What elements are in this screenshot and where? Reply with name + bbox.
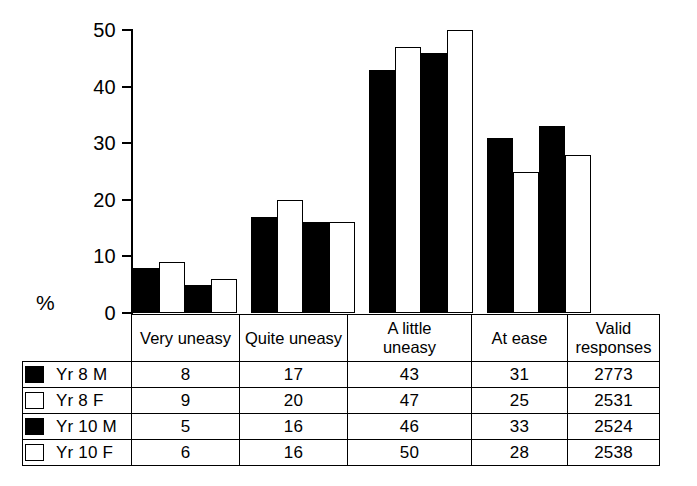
bar bbox=[133, 268, 159, 313]
table-cell: 16 bbox=[240, 414, 348, 440]
table-row: Yr 10 F61650282538 bbox=[23, 440, 660, 466]
y-tick-mark bbox=[122, 29, 131, 31]
table-column-header-line: Valid bbox=[568, 319, 659, 338]
table-row: Yr 10 M51646332524 bbox=[23, 414, 660, 440]
y-tick-label: 10 bbox=[74, 246, 116, 266]
table-cell: 2524 bbox=[568, 414, 660, 440]
y-tick-label: 50 bbox=[74, 20, 116, 40]
bar bbox=[565, 155, 591, 313]
table-cell: 33 bbox=[472, 414, 568, 440]
table-corner-blank bbox=[23, 315, 132, 362]
y-tick-mark bbox=[122, 255, 131, 257]
table-cell: 16 bbox=[240, 440, 348, 466]
y-tick-mark bbox=[122, 86, 131, 88]
table-column-header: Very uneasy bbox=[132, 315, 240, 362]
table-column-header: Quite uneasy bbox=[240, 315, 348, 362]
bar bbox=[159, 262, 185, 313]
table-column-header-line: Very uneasy bbox=[132, 329, 239, 348]
table-column-header-line: Quite uneasy bbox=[240, 329, 347, 348]
bar bbox=[539, 126, 565, 313]
bar-group bbox=[133, 30, 237, 313]
legend-series-label: Yr 8 F bbox=[56, 391, 104, 411]
y-tick-mark bbox=[122, 142, 131, 144]
table-cell: 46 bbox=[348, 414, 472, 440]
bar-group bbox=[369, 30, 473, 313]
table-column-header: A littleuneasy bbox=[348, 315, 472, 362]
table-cell: 47 bbox=[348, 388, 472, 414]
bar bbox=[369, 70, 395, 313]
table-cell: 2773 bbox=[568, 362, 660, 388]
y-tick-mark bbox=[122, 199, 131, 201]
bar-group bbox=[487, 30, 591, 313]
bar bbox=[185, 285, 211, 313]
legend-series-label: Yr 10 M bbox=[56, 417, 117, 437]
bar bbox=[251, 217, 277, 313]
legend-series-label: Yr 8 M bbox=[56, 365, 107, 385]
bar bbox=[395, 47, 421, 313]
bar bbox=[447, 30, 473, 313]
table-cell: 2538 bbox=[568, 440, 660, 466]
table-row: Yr 8 M81743312773 bbox=[23, 362, 660, 388]
bar bbox=[487, 138, 513, 313]
legend-cell: Yr 10 F bbox=[23, 440, 132, 466]
legend-cell: Yr 10 M bbox=[23, 414, 132, 440]
legend-swatch-icon bbox=[25, 392, 44, 409]
plot-area bbox=[133, 30, 658, 313]
legend-swatch-icon bbox=[25, 366, 44, 383]
chart-figure: % 50403020100 Very uneasyQuite uneasyA l… bbox=[0, 0, 697, 486]
table-column-header: Validresponses bbox=[568, 315, 660, 362]
legend-swatch-icon bbox=[25, 444, 44, 461]
table-cell: 6 bbox=[132, 440, 240, 466]
table-cell: 43 bbox=[348, 362, 472, 388]
y-tick-label: 30 bbox=[74, 133, 116, 153]
table-cell: 28 bbox=[472, 440, 568, 466]
table-column-header-line: At ease bbox=[472, 329, 567, 348]
bar bbox=[513, 172, 539, 314]
bar bbox=[421, 53, 447, 313]
table-cell: 25 bbox=[472, 388, 568, 414]
legend-cell: Yr 8 M bbox=[23, 362, 132, 388]
table-column-header: At ease bbox=[472, 315, 568, 362]
y-axis-unit-label: % bbox=[36, 292, 55, 313]
data-table: Very uneasyQuite uneasyA littleuneasyAt … bbox=[22, 314, 660, 466]
bar bbox=[303, 222, 329, 313]
table-row: Yr 8 F92047252531 bbox=[23, 388, 660, 414]
data-table-wrapper: Very uneasyQuite uneasyA littleuneasyAt … bbox=[22, 314, 659, 466]
bar-group bbox=[251, 30, 355, 313]
table-column-header-line: responses bbox=[568, 338, 659, 357]
bar bbox=[277, 200, 303, 313]
table-cell: 9 bbox=[132, 388, 240, 414]
bar bbox=[329, 222, 355, 313]
legend-swatch-icon bbox=[25, 418, 44, 435]
table-cell: 2531 bbox=[568, 388, 660, 414]
table-cell: 17 bbox=[240, 362, 348, 388]
table-column-header-line: uneasy bbox=[348, 338, 471, 357]
y-tick-label: 20 bbox=[74, 190, 116, 210]
table-cell: 5 bbox=[132, 414, 240, 440]
legend-series-label: Yr 10 F bbox=[56, 443, 113, 463]
legend-cell: Yr 8 F bbox=[23, 388, 132, 414]
y-tick-label: 40 bbox=[74, 77, 116, 97]
table-cell: 31 bbox=[472, 362, 568, 388]
table-cell: 20 bbox=[240, 388, 348, 414]
table-column-header-line: A little bbox=[348, 319, 471, 338]
bar bbox=[211, 279, 237, 313]
table-cell: 8 bbox=[132, 362, 240, 388]
table-cell: 50 bbox=[348, 440, 472, 466]
table-body: Yr 8 M81743312773Yr 8 F92047252531Yr 10 … bbox=[23, 362, 660, 466]
table-header-row: Very uneasyQuite uneasyA littleuneasyAt … bbox=[23, 315, 660, 362]
